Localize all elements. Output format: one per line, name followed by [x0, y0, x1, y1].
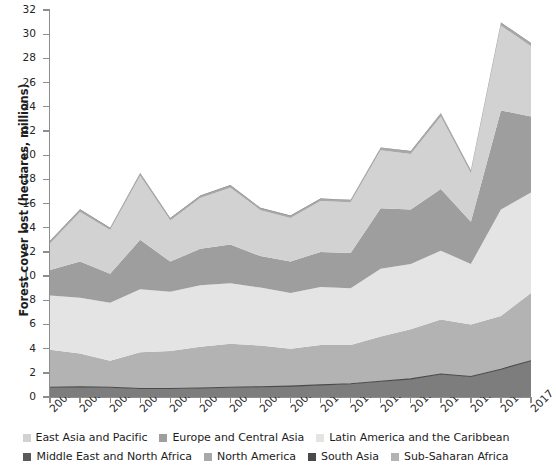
legend-item-south-asia[interactable]: South Asia [308, 450, 379, 463]
y-tick-label-14: 14 [2, 221, 36, 233]
y-tick-4 [43, 348, 50, 349]
y-tick-10 [43, 275, 50, 276]
y-tick-label-10: 10 [2, 269, 36, 281]
y-tick-label-0: 0 [2, 390, 36, 402]
y-tick-label-18: 18 [2, 172, 36, 184]
y-tick-label-8: 8 [2, 293, 36, 305]
y-tick-label-22: 22 [2, 124, 36, 136]
y-tick-26 [43, 82, 50, 83]
legend-label: Europe and Central Asia [172, 431, 304, 444]
y-tick-14 [43, 227, 50, 228]
y-tick-label-20: 20 [2, 148, 36, 160]
legend-swatch-icon [159, 434, 167, 442]
y-tick-label-4: 4 [2, 342, 36, 354]
y-tick-18 [43, 179, 50, 180]
legend-row-2: Middle East and North AfricaNorth Americ… [0, 447, 532, 466]
legend-swatch-icon [23, 453, 31, 461]
y-tick-label-12: 12 [2, 245, 36, 257]
y-tick-22 [43, 130, 50, 131]
legend-label: Sub-Saharan Africa [404, 450, 509, 463]
y-tick-12 [43, 251, 50, 252]
y-tick-20 [43, 155, 50, 156]
legend-label: East Asia and Pacific [36, 431, 148, 444]
legend-item-europe-and-central-asia[interactable]: Europe and Central Asia [159, 431, 304, 444]
legend-swatch-icon [316, 434, 324, 442]
legend-swatch-icon [23, 434, 31, 442]
chart-legend: East Asia and PacificEurope and Central … [0, 428, 532, 466]
y-tick-30 [43, 34, 50, 35]
y-tick-label-28: 28 [2, 51, 36, 63]
legend-item-sub-saharan-africa[interactable]: Sub-Saharan Africa [391, 450, 509, 463]
y-tick-2 [43, 372, 50, 373]
y-tick-label-30: 30 [2, 27, 36, 39]
y-tick-label-32: 32 [2, 3, 36, 15]
stacked-area-series [50, 10, 531, 397]
y-tick-8 [43, 300, 50, 301]
legend-item-east-asia-and-pacific[interactable]: East Asia and Pacific [23, 431, 148, 444]
legend-item-latin-america-and-the-caribbean[interactable]: Latin America and the Caribbean [316, 431, 509, 444]
y-tick-label-2: 2 [2, 366, 36, 378]
x-tick-label-2017: 2017 [528, 387, 556, 415]
legend-label: North America [217, 450, 296, 463]
legend-swatch-icon [391, 453, 399, 461]
y-tick-label-6: 6 [2, 317, 36, 329]
y-tick-6 [43, 324, 50, 325]
legend-label: South Asia [321, 450, 379, 463]
y-tick-32 [43, 9, 50, 10]
legend-label: Middle East and North Africa [36, 450, 192, 463]
y-tick-24 [43, 106, 50, 107]
y-tick-label-16: 16 [2, 197, 36, 209]
legend-label: Latin America and the Caribbean [329, 431, 509, 444]
legend-swatch-icon [204, 453, 212, 461]
legend-item-middle-east-and-north-africa[interactable]: Middle East and North Africa [23, 450, 192, 463]
legend-item-north-america[interactable]: North America [204, 450, 296, 463]
legend-row-1: East Asia and PacificEurope and Central … [0, 428, 532, 447]
y-tick-label-24: 24 [2, 100, 36, 112]
legend-swatch-icon [308, 453, 316, 461]
y-tick-label-26: 26 [2, 76, 36, 88]
y-tick-16 [43, 203, 50, 204]
y-tick-28 [43, 58, 50, 59]
plot-area [50, 10, 531, 397]
